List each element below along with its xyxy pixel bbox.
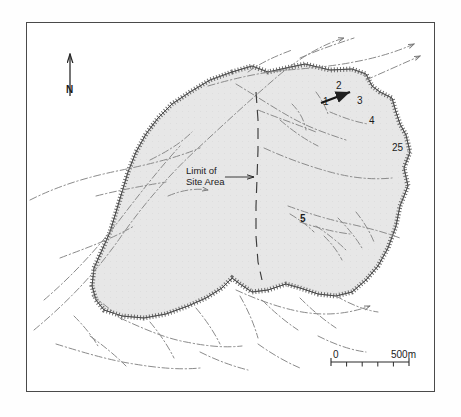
limit-label-line2: Site Area	[186, 176, 225, 187]
map-label-4: 4	[369, 115, 375, 126]
limit-of-site-area-label: Limit of Site Area	[186, 165, 225, 187]
limit-label-line1: Limit of	[186, 165, 217, 176]
north-arrow-label: N	[66, 84, 74, 95]
map-label-1: 1	[323, 96, 329, 107]
map-label-25: 25	[392, 142, 403, 153]
scale-bar-max-label: 500m	[391, 349, 416, 360]
map-label-2: 2	[336, 80, 342, 91]
site-location-map: N Limit of Site Area 1 2 3 4 25 5 0 500m	[0, 0, 461, 417]
map-label-3: 3	[357, 95, 363, 106]
scale-bar-min-label: 0	[333, 349, 339, 360]
map-label-5: 5	[300, 213, 306, 224]
